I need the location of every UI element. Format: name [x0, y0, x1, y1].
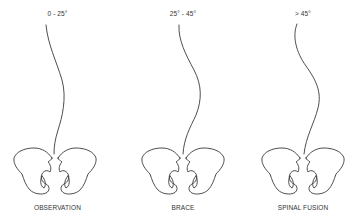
spine-pelvis-illustration	[248, 0, 354, 223]
spine-curve	[295, 24, 319, 154]
spine-pelvis-illustration	[0, 0, 115, 223]
panel-observation: 0 - 25° OBSERVATION	[0, 0, 115, 223]
spine-curve	[179, 25, 200, 154]
panel-brace: 25° - 45° BRACE	[128, 0, 238, 223]
treatment-label: BRACE	[128, 204, 238, 211]
treatment-label: SPINAL FUSION	[248, 204, 354, 211]
pelvis-icon	[262, 148, 344, 194]
treatment-label: OBSERVATION	[0, 204, 115, 211]
scoliosis-treatment-diagram: 0 - 25° OBSERVATION 25° - 45° BRACE	[0, 0, 354, 223]
spine-pelvis-illustration	[128, 0, 238, 223]
pelvis-icon	[14, 148, 96, 194]
pelvis-icon	[142, 148, 224, 194]
spine-curve	[46, 25, 64, 154]
panel-spinal-fusion: > 45° SPINAL FUSION	[248, 0, 354, 223]
